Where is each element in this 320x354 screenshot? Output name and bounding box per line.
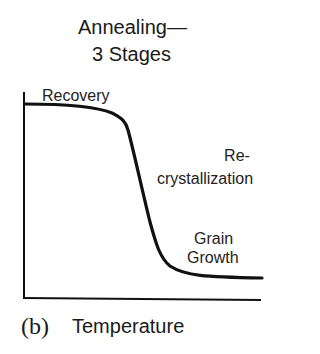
label-recovery: Recovery: [42, 86, 110, 105]
label-grain-line-2: Growth: [187, 248, 239, 267]
label-recrystallization-line-1: Re-: [187, 146, 284, 165]
x-axis-label: Temperature: [72, 314, 184, 338]
label-grain-line-1: Grain: [194, 229, 233, 248]
x-axis: [23, 298, 261, 300]
label-recrystallization-line-2: crystallization: [157, 169, 253, 188]
panel-label: (b): [21, 312, 49, 340]
